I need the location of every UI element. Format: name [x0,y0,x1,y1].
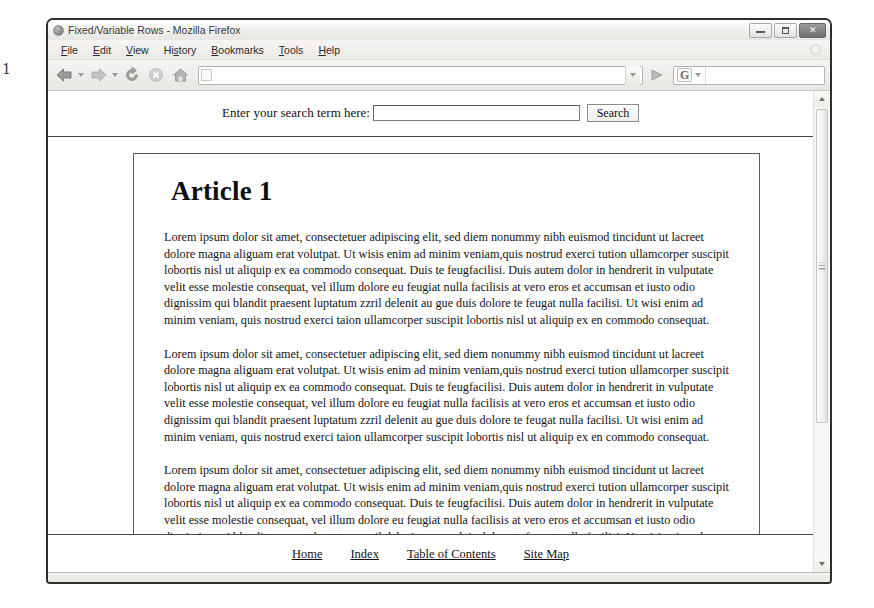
home-button[interactable] [169,64,191,86]
firefox-icon [53,25,64,36]
menu-item-file[interactable]: File [54,42,85,58]
minimize-icon [756,31,765,33]
close-button[interactable]: ✕ [799,23,826,38]
page-search-form: Enter your search term here: Search [48,91,813,136]
maximize-button[interactable] [774,23,797,38]
back-button[interactable] [53,64,75,86]
chevron-down-icon [695,73,701,77]
back-history-dropdown-icon[interactable] [78,73,84,77]
page-footer: Home Index Table of Contents Site Map [48,534,813,572]
page-search-label: Enter your search term here: [222,105,370,121]
menu-item-bookmarks-rest: ookmarks [218,44,264,56]
forward-arrow-icon [89,67,108,83]
menu-item-edit-rest: dit [100,44,111,56]
home-icon [172,67,189,83]
toolbar-search-input[interactable] [706,67,832,84]
search-engine-selector[interactable]: G [674,67,706,84]
chevron-down-icon [630,73,636,77]
article-box: Article 1 Lorem ipsum dolor sit amet, co… [133,153,760,572]
scroll-thumb-grip-icon [819,263,826,270]
article-paragraph: Lorem ipsum dolor sit amet, consectetuer… [164,229,735,329]
menu-bar-end-badge-icon [810,44,821,55]
scroll-thumb[interactable] [816,109,828,423]
scroll-down-button[interactable] [814,556,830,572]
scroll-down-arrow-icon [819,562,825,566]
page-search-button[interactable]: Search [587,104,639,122]
menu-item-tools[interactable]: Tools [272,42,311,58]
forward-button[interactable] [87,64,109,86]
menu-item-history[interactable]: History [157,42,204,58]
back-arrow-icon [55,67,74,83]
article-region: Article 1 Lorem ipsum dolor sit amet, co… [48,137,813,572]
title-bar: Fixed/Variable Rows - Mozilla Firefox ✕ [48,20,830,40]
menu-item-view-rest: iew [133,44,149,56]
article-heading: Article 1 [171,176,735,207]
window-controls: ✕ [749,23,826,38]
menu-item-bookmarks[interactable]: Bookmarks [204,42,271,58]
toolbar-search-box[interactable]: G [673,66,825,85]
forward-history-dropdown-icon[interactable] [112,73,118,77]
stop-button[interactable] [145,64,167,86]
go-arrow-icon [649,68,665,82]
menu-bar: File Edit View History Bookmarks Tools H… [48,40,830,60]
google-g-icon: G [677,68,692,82]
address-input[interactable] [212,67,625,84]
reload-button[interactable] [121,64,143,86]
scroll-up-button[interactable] [814,91,830,107]
stop-icon [148,67,164,83]
maximize-icon [782,27,789,34]
page-search-input[interactable] [373,105,580,121]
vertical-scrollbar[interactable] [813,91,830,572]
article-paragraph: Lorem ipsum dolor sit amet, consectetuer… [164,346,735,446]
address-dropdown-button[interactable] [625,66,640,85]
menu-item-file-rest: ile [67,44,78,56]
window-title: Fixed/Variable Rows - Mozilla Firefox [68,24,241,36]
close-icon: ✕ [809,26,817,35]
navigation-toolbar: G [48,60,830,91]
menu-item-help[interactable]: Help [311,42,347,58]
go-button[interactable] [647,65,667,85]
status-bar [48,573,830,584]
browser-window: Fixed/Variable Rows - Mozilla Firefox ✕ … [46,18,832,584]
address-bar[interactable] [198,66,643,85]
page-edge-artifact: 1 [2,60,11,77]
footer-link-home[interactable]: Home [292,547,323,561]
footer-link-table-of-contents[interactable]: Table of Contents [407,547,496,561]
menu-item-help-rest: elp [326,44,340,56]
page-favicon-icon [201,69,212,81]
footer-link-site-map[interactable]: Site Map [524,547,569,561]
reload-icon [123,66,141,84]
minimize-button[interactable] [749,23,772,38]
scroll-up-arrow-icon [819,97,825,101]
menu-item-view[interactable]: View [119,42,156,58]
web-page: Enter your search term here: Search Arti… [48,91,813,572]
title-bar-left: Fixed/Variable Rows - Mozilla Firefox [53,24,749,36]
content-viewport: Enter your search term here: Search Arti… [48,91,830,573]
menu-item-edit[interactable]: Edit [86,42,118,58]
menu-item-tools-rest: ools [284,44,303,56]
footer-link-index[interactable]: Index [350,547,378,561]
